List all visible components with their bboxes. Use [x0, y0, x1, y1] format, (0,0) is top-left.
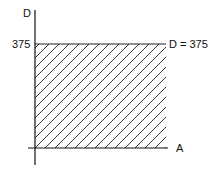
y-tick-label: 375	[12, 39, 30, 50]
x-axis-label: A	[176, 143, 183, 154]
constraint-label: D = 375	[169, 39, 208, 50]
y-axis-label: D	[23, 8, 31, 19]
